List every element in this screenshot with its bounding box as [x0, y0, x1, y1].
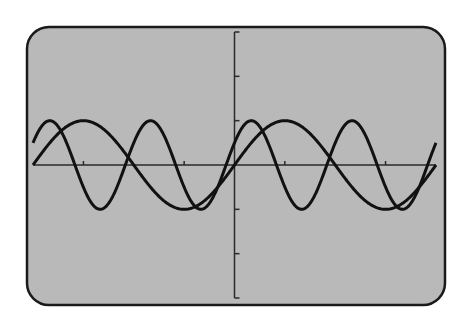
graphing-calculator-screen	[0, 0, 465, 328]
screen-frame	[27, 27, 445, 305]
